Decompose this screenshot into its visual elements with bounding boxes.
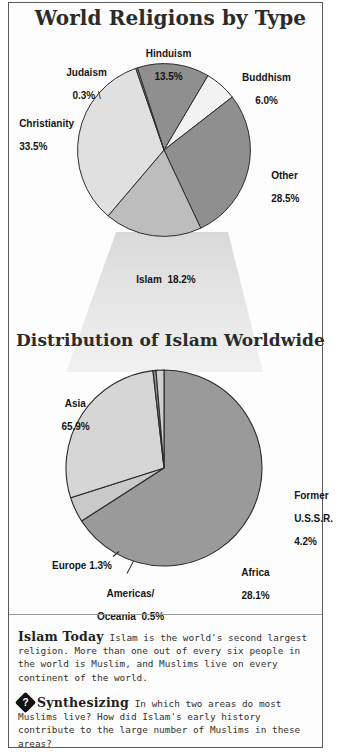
label-africa: Africa 28.1% bbox=[222, 555, 278, 613]
label-europe: Europe 1.3% bbox=[24, 560, 112, 572]
note-synthesizing-heading: Synthesizing bbox=[37, 695, 129, 710]
question-glyph: ? bbox=[18, 695, 33, 710]
chart-title-world-religions: World Religions by Type bbox=[0, 6, 341, 30]
label-christianity: Christianity 33.5% bbox=[8, 106, 80, 164]
note-islam-today: Islam Today Islam is the world's second … bbox=[18, 630, 315, 684]
chart-title-islam-distribution: Distribution of Islam Worldwide bbox=[0, 330, 341, 350]
section-divider bbox=[9, 614, 322, 615]
label-buddhism: Buddhism 6.0% bbox=[222, 60, 300, 118]
label-judaism: Judaism 0.3% \ bbox=[48, 55, 114, 113]
label-hinduism: Hinduism 13.5% bbox=[120, 36, 206, 94]
label-asia: Asia 65.9% bbox=[40, 386, 100, 444]
note-islam-today-heading: Islam Today bbox=[18, 629, 104, 644]
infographic-page: World Religions by Type Hinduism 13.5% J… bbox=[0, 0, 341, 754]
label-former-ussr: Former U.S.S.R. 4.2% bbox=[283, 478, 339, 559]
label-islam: Islam 18.2% bbox=[106, 274, 226, 286]
question-diamond-icon: ? bbox=[18, 695, 33, 710]
label-other: Other 28.5% bbox=[260, 158, 320, 216]
label-americas-oceania: Americas/ Oceania 0.5% bbox=[70, 576, 180, 634]
note-synthesizing: ? Synthesizing In which two areas do mos… bbox=[18, 692, 315, 750]
